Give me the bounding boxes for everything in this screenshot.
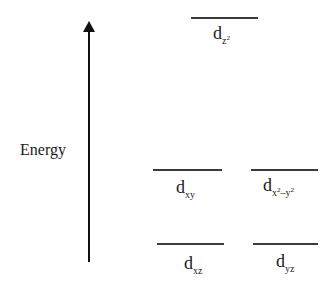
- energy-axis-label: Energy: [20, 142, 66, 158]
- orbital-subscript: xy: [185, 189, 195, 200]
- axis-line: [88, 28, 90, 262]
- level-dxy: [153, 169, 222, 171]
- orbital-letter: d: [263, 175, 272, 195]
- level-dx2-y2: [251, 169, 318, 171]
- orbital-letter: d: [184, 253, 193, 273]
- label-dxz: dxz: [184, 254, 202, 276]
- level-dyz: [253, 243, 318, 245]
- orbital-subscript: –y: [281, 187, 291, 198]
- orbital-letter: d: [276, 251, 285, 271]
- orbital-subscript: yz: [285, 263, 294, 274]
- label-dz2: dz2: [213, 24, 230, 46]
- orbital-letter: d: [176, 177, 185, 197]
- orbital-superscript: 2: [291, 186, 295, 194]
- orbital-superscript: 2: [226, 34, 230, 42]
- orbital-letter: d: [213, 23, 222, 43]
- level-dxz: [157, 243, 224, 245]
- orbital-subscript: xz: [193, 265, 202, 276]
- level-dz2: [191, 17, 258, 19]
- label-dyz: dyz: [276, 252, 294, 274]
- label-dxy: dxy: [176, 178, 195, 200]
- label-dx2-y2: dx2–y2: [263, 176, 294, 198]
